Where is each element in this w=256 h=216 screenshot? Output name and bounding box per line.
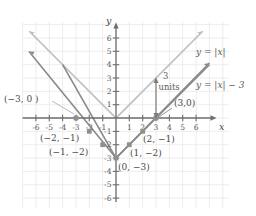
x-tick-label: -5 <box>46 123 54 132</box>
annotation-units: units <box>159 82 180 92</box>
x-tick-label: 5 <box>180 123 185 132</box>
point-label-2-neg1: (2, −1) <box>143 134 175 144</box>
y-tick-label: -3 <box>104 154 112 163</box>
x-tick-label: 1 <box>127 123 132 132</box>
y-tick-label: 4 <box>107 60 112 69</box>
point-label-0-neg3: (0, −3) <box>118 162 150 172</box>
coordinate-plane: -6 -5 -4 -3 -2 -1 1 2 3 4 5 6 6 5 4 3 2 … <box>0 0 256 216</box>
point-marker <box>127 142 132 147</box>
annotation-number: 3 <box>163 71 168 81</box>
point-label-neg1-neg2: (−1, −2) <box>49 147 88 157</box>
y-axis-label: y <box>105 15 112 26</box>
x-tick-label: -6 <box>32 123 40 132</box>
x-tick-label: 6 <box>194 123 199 132</box>
point-marker <box>87 129 92 134</box>
curve1-label: y = |x| <box>195 47 226 58</box>
x-tick-label: 4 <box>167 123 172 132</box>
point-label-1-neg2: (1, −2) <box>130 148 162 158</box>
x-tick-label: 3 <box>154 123 159 132</box>
y-tick-label: -6 <box>104 194 112 203</box>
y-tick-label: 3 <box>107 74 112 83</box>
y-tick-label: -2 <box>104 140 112 149</box>
point-marker <box>114 156 119 161</box>
point-label-neg2-neg1: (−2, −1) <box>40 133 79 143</box>
point-label-neg3-0: (−3, 0 ) <box>4 94 39 104</box>
y-tick-label: 5 <box>107 47 112 56</box>
x-axis-label: x <box>219 121 225 132</box>
y-tick-label: -4 <box>104 167 112 176</box>
x-tick-label: -3 <box>72 123 80 132</box>
point-marker <box>100 142 105 147</box>
point-marker <box>74 116 79 121</box>
curve2-label: y = |x| − 3 <box>195 80 245 91</box>
y-tick-label: 2 <box>107 87 112 96</box>
y-tick-label: 1 <box>107 100 112 109</box>
x-tick-label: -4 <box>59 123 67 132</box>
y-tick-label: 6 <box>107 34 112 43</box>
y-tick-label: -5 <box>104 180 112 189</box>
graph-figure: -6 -5 -4 -3 -2 -1 1 2 3 4 5 6 6 5 4 3 2 … <box>0 0 256 216</box>
y-tick-label: -1 <box>104 127 111 136</box>
point-marker <box>140 129 145 134</box>
point-label-3-0: (3,0) <box>174 98 195 108</box>
